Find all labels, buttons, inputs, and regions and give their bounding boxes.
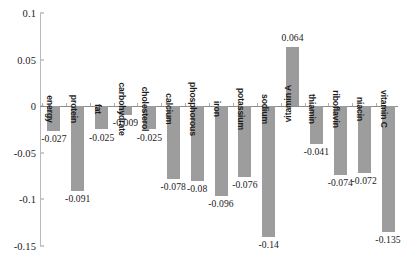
bar-value-label: -0.078 (161, 181, 186, 192)
x-tick-mark (352, 103, 353, 106)
bar-category-label: potassium (236, 88, 245, 130)
bar-value-label: -0.074 (328, 177, 353, 188)
bar-value-label: -0.14 (258, 239, 278, 250)
x-tick-mark (114, 103, 115, 106)
bar-thiamin: thiamin (310, 106, 323, 144)
bar-category-label: carbohydrate (117, 83, 126, 136)
bar-category-label: vitamin A (284, 84, 293, 121)
bar-value-label: -0.091 (65, 193, 90, 204)
bar-category-label: sodium (260, 94, 269, 124)
bar-value-label: -0.025 (89, 132, 114, 143)
bar-value-label: -0.027 (41, 133, 66, 144)
bar-iron: iron (215, 106, 228, 195)
plot-area: energy-0.027protein-0.091fat-0.025carboh… (40, 13, 398, 246)
bar-category-label: thiamin (308, 94, 317, 124)
bar-carbohydrate: carbohydrate (119, 106, 132, 114)
x-tick-mark (257, 103, 258, 106)
bar-category-label: cholesterol (141, 87, 150, 132)
x-tick-mark (281, 103, 282, 106)
bar-category-label: vitamin C (379, 90, 388, 128)
y-tick-label: -0.15 (14, 241, 36, 252)
bar-protein: protein (71, 106, 84, 191)
x-tick-mark (233, 103, 234, 106)
x-tick-mark (66, 103, 67, 106)
bar-category-label: iron (212, 101, 221, 117)
bar-value-label: -0.135 (375, 234, 400, 245)
bar-sodium: sodium (262, 106, 275, 236)
bar-value-label: -0.076 (232, 179, 257, 190)
x-tick-mark (376, 103, 377, 106)
x-tick-mark (42, 103, 43, 106)
y-tick-label: 0.05 (17, 54, 36, 65)
y-tick-label: -0.05 (14, 147, 36, 158)
bar-chart: 0.10.050-0.05-0.1-0.15 energy-0.027prote… (0, 0, 402, 269)
y-tick-label: 0.1 (23, 8, 36, 19)
bar-value-label: -0.072 (351, 175, 376, 186)
bar-niacin: niacin (358, 106, 371, 173)
x-tick-mark (90, 103, 91, 106)
bar-vitamin-a: vitamin A (286, 47, 299, 107)
bar-category-label: protein (69, 95, 78, 123)
x-tick-mark (161, 103, 162, 106)
bar-category-label: calcium (165, 94, 174, 125)
bar-category-label: energy (45, 95, 54, 123)
bar-riboflavin: riboflavin (334, 106, 347, 175)
bar-value-label: -0.096 (208, 198, 233, 209)
bar-value-label: -0.08 (187, 183, 207, 194)
x-tick-mark (137, 103, 138, 106)
x-tick-mark (209, 103, 210, 106)
bar-value-label: -0.041 (304, 146, 329, 157)
bar-energy: energy (47, 106, 60, 131)
x-tick-mark (185, 103, 186, 106)
bar-phosphorous: phosphorous (191, 106, 204, 181)
bar-value-label: -0.025 (137, 132, 162, 143)
bar-potassium: potassium (238, 106, 251, 177)
bar-category-label: fat (93, 104, 102, 114)
bar-calcium: calcium (167, 106, 180, 179)
bar-value-label: 0.064 (282, 32, 304, 43)
y-tick-label: 0 (31, 101, 36, 112)
bar-vitamin-c: vitamin C (382, 106, 395, 232)
bar-fat: fat (95, 106, 108, 129)
y-tick-label: -0.1 (19, 194, 36, 205)
bar-category-label: niacin (356, 97, 365, 121)
bar-value-label: -0.009 (113, 117, 138, 128)
bar-category-label: riboflavin (332, 90, 341, 128)
bar-category-label: phosphorous (189, 82, 198, 136)
x-tick-mark (305, 103, 306, 106)
bar-cholesterol: cholesterol (143, 106, 156, 129)
x-tick-mark (328, 103, 329, 106)
